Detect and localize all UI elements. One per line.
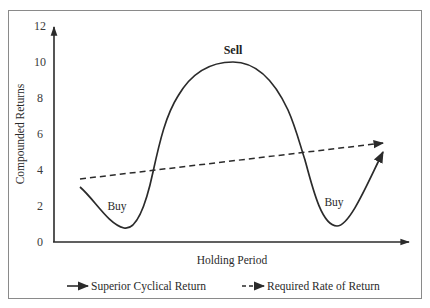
y-axis-label: Compounded Returns	[14, 83, 27, 184]
y-tick-8: 8	[37, 91, 43, 105]
y-tick-2: 2	[37, 199, 43, 213]
buy-label-2: Buy	[324, 196, 343, 209]
x-axis-label: Holding Period	[197, 254, 268, 267]
buy-label-1: Buy	[107, 200, 126, 213]
y-tick-10: 10	[34, 55, 46, 69]
y-tick-4: 4	[37, 163, 43, 177]
y-tick-12: 12	[34, 19, 46, 33]
y-tick-0: 0	[37, 235, 43, 249]
chart-canvas: 0 2 4 6 8 10 12 Compounded Returns Holdi…	[0, 0, 430, 308]
legend: Superior Cyclical Return Required Rate o…	[67, 280, 380, 293]
legend-solid-label: Superior Cyclical Return	[91, 280, 206, 293]
legend-dashed-label: Required Rate of Return	[267, 280, 380, 293]
y-tick-6: 6	[37, 127, 43, 141]
required-rate-line	[80, 143, 383, 179]
y-tick-labels: 0 2 4 6 8 10 12	[34, 19, 46, 249]
sell-label: Sell	[224, 43, 243, 57]
